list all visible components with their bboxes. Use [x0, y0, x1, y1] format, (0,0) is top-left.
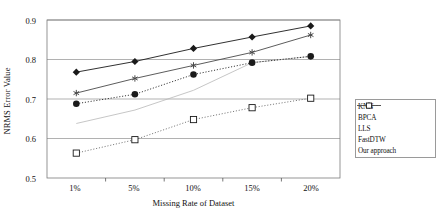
axis-ticks: [106, 178, 282, 182]
chart-container: NRMS Error Value Missing Rate of Dataset…: [0, 0, 440, 222]
series-lls: [74, 32, 314, 96]
legend-item-fastdtw[interactable]: FastDTW: [356, 135, 435, 146]
data-series-layer: [73, 22, 315, 156]
legend: KNN BPCA LLS FastDTW: [355, 99, 436, 158]
legend-swatch-our-approach: [356, 100, 382, 111]
legend-label-bpca: BPCA: [358, 115, 376, 122]
legend-item-bpca[interactable]: BPCA: [356, 113, 435, 124]
legend-label-fastdtw: FastDTW: [358, 137, 386, 144]
legend-label-our-approach: Our approach: [358, 148, 396, 155]
series-our-approach: [73, 95, 314, 156]
legend-label-lls: LLS: [358, 126, 370, 133]
legend-item-our-approach[interactable]: Our approach: [356, 146, 435, 157]
legend-item-lls[interactable]: LLS: [356, 124, 435, 135]
